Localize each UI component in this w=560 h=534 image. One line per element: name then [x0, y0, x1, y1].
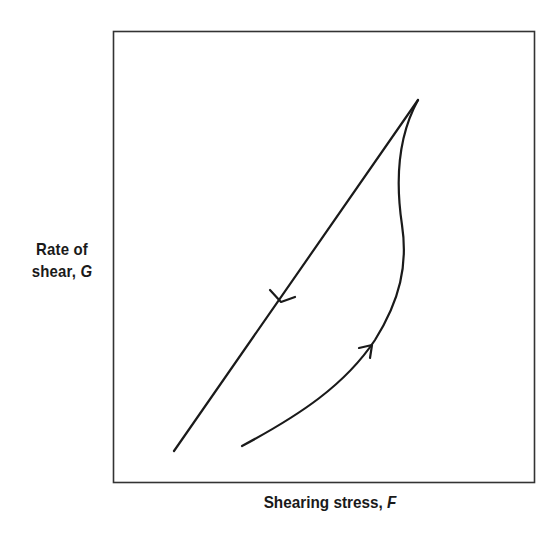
down-curve-line: [174, 100, 418, 451]
y-axis-label: Rate of shear, G: [20, 239, 104, 283]
x-axis-variable: F: [387, 493, 396, 512]
y-axis-label-text: shear,: [32, 262, 76, 281]
y-axis-label-line2: shear, G: [20, 261, 104, 283]
plot-frame: [114, 32, 535, 483]
up-curve-line: [242, 100, 418, 446]
y-axis-label-line1: Rate of: [20, 239, 104, 261]
x-axis-label: Shearing stress, F: [213, 493, 447, 513]
y-axis-variable: G: [80, 262, 92, 281]
x-axis-label-text: Shearing stress,: [264, 493, 383, 512]
